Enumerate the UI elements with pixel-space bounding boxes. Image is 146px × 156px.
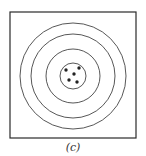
shot-dot xyxy=(75,80,78,83)
target-rings xyxy=(20,23,126,129)
shot-dot xyxy=(72,72,75,75)
shot-dot xyxy=(77,66,80,69)
target-ring xyxy=(20,23,126,129)
target-ring xyxy=(60,63,86,89)
shot-dot xyxy=(64,68,67,71)
target-diagram xyxy=(0,0,146,156)
target-ring xyxy=(31,34,115,118)
shot-dots xyxy=(64,66,80,83)
shot-dot xyxy=(67,78,70,81)
figure-label: (c) xyxy=(0,141,146,154)
target-ring xyxy=(46,49,100,103)
